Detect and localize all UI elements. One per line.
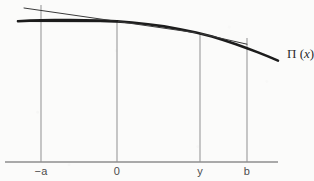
x-axis-tick-label: b <box>244 165 250 177</box>
curve-label-symbol: Π <box>287 46 296 61</box>
vertical-gridlines-group <box>41 5 247 162</box>
curve-label-close-paren: ) <box>310 46 314 61</box>
x-axis-tick-label: 0 <box>114 165 120 177</box>
curve-label: Π (x) <box>287 46 314 62</box>
x-axis-tick-label: −a <box>35 165 48 177</box>
curve-label-open-paren: ( <box>296 46 304 61</box>
curve-and-tangents-group <box>18 8 278 61</box>
x-axis-tick-label: y <box>197 165 203 177</box>
figure-container: −a0yb Π (x) <box>0 0 314 181</box>
tangent-line <box>200 34 247 45</box>
plot-canvas <box>0 0 314 181</box>
